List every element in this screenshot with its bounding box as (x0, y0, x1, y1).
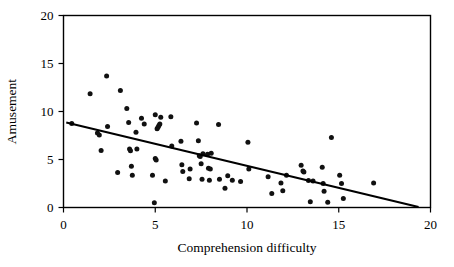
data-point (180, 169, 185, 174)
x-tick-label-20: 20 (424, 217, 437, 232)
data-point (128, 148, 133, 153)
data-point (194, 121, 199, 126)
data-point (308, 199, 313, 204)
x-tick-label-5: 5 (152, 217, 159, 232)
data-point (139, 116, 144, 121)
y-tick-label-5: 5 (47, 152, 54, 167)
data-point (208, 167, 213, 172)
data-point (339, 181, 344, 186)
x-tick-label-15: 15 (332, 217, 345, 232)
data-point (126, 120, 131, 125)
data-point (230, 178, 235, 183)
data-point (88, 91, 93, 96)
x-axis-ticks (64, 208, 431, 213)
y-tick-label-20: 20 (41, 8, 54, 23)
data-point (371, 181, 376, 186)
x-tick-label-10: 10 (241, 217, 254, 232)
chart-canvas: 05101520 05101520 Comprehension difficul… (0, 0, 454, 267)
y-tick-label-15: 15 (41, 56, 54, 71)
data-point (199, 161, 204, 166)
data-point (142, 121, 147, 126)
data-point (299, 163, 304, 168)
data-point (245, 140, 250, 145)
data-point (222, 186, 227, 191)
data-point (150, 173, 155, 178)
y-tick-label-10: 10 (41, 104, 54, 119)
data-point (157, 121, 162, 126)
trend-line (66, 123, 418, 207)
data-point (278, 181, 283, 186)
data-point (280, 188, 285, 193)
data-point (168, 114, 173, 119)
data-point (104, 73, 109, 78)
data-point (158, 115, 163, 120)
data-point (207, 178, 212, 183)
x-axis-title: Comprehension difficulty (178, 240, 317, 255)
data-point (238, 179, 243, 184)
x-axis-tick-labels: 05101520 (60, 217, 437, 232)
data-point (129, 164, 134, 169)
data-point (178, 139, 183, 144)
data-point (118, 88, 123, 93)
data-point (209, 151, 214, 156)
data-point (134, 146, 139, 151)
data-point (341, 196, 346, 201)
data-point (163, 179, 168, 184)
data-point (99, 148, 104, 153)
data-point (266, 174, 271, 179)
data-point (179, 162, 184, 167)
data-point (337, 173, 342, 178)
data-point (269, 191, 274, 196)
y-axis-tick-labels: 05101520 (41, 8, 54, 215)
data-point (115, 170, 120, 175)
data-point (152, 200, 157, 205)
data-point (133, 130, 138, 135)
data-point (225, 173, 230, 178)
data-point (200, 177, 205, 182)
data-point (329, 135, 334, 140)
data-point (325, 200, 330, 205)
data-point (188, 167, 193, 172)
data-point (97, 133, 102, 138)
plot-frame (64, 16, 431, 208)
data-point (217, 177, 222, 182)
data-point (216, 122, 221, 127)
data-point (154, 157, 159, 162)
plot-area-border (64, 16, 431, 208)
data-point (196, 138, 201, 143)
data-point (322, 189, 327, 194)
data-point (105, 124, 110, 129)
y-axis-ticks (59, 16, 64, 208)
data-point (130, 173, 135, 178)
data-point (153, 112, 158, 117)
x-tick-label-0: 0 (60, 217, 67, 232)
data-point (301, 169, 306, 174)
y-tick-label-0: 0 (47, 200, 54, 215)
data-point (124, 106, 129, 111)
data-point (320, 165, 325, 170)
scatter-plot-figure: 05101520 05101520 Comprehension difficul… (0, 0, 454, 267)
data-point (187, 176, 192, 181)
y-axis-title: Amusement (4, 79, 19, 144)
